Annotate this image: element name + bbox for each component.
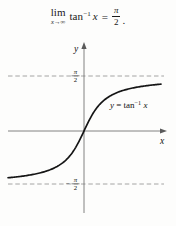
- x-axis-arrow-icon: [160, 128, 167, 133]
- x-axis-label: x: [159, 136, 165, 146]
- y-axis-label: y: [73, 44, 79, 54]
- top-asymptote-label: π 2: [72, 68, 80, 83]
- curve-label-arg: x: [141, 100, 147, 110]
- arctan-limit-figure: lim x→∞ tan −1 x = π 2 . y x π: [0, 0, 176, 226]
- bottom-asymptote-denominator: 2: [74, 184, 78, 191]
- curve-label-eq: = tan: [114, 100, 135, 110]
- bottom-asymptote-minus: −: [66, 180, 70, 188]
- top-asymptote-numerator: π: [74, 68, 78, 75]
- top-asymptote-denominator: 2: [74, 76, 78, 83]
- curve-label: y = tan−1 x: [109, 99, 147, 111]
- bottom-asymptote-numerator: π: [74, 176, 78, 183]
- curve-label-sup: −1: [135, 99, 142, 106]
- bottom-asymptote-label: − π 2: [66, 176, 79, 191]
- y-axis-arrow-icon: [81, 42, 86, 49]
- arctan-plot: y x π 2 − π 2 y = tan−1 x: [0, 0, 176, 226]
